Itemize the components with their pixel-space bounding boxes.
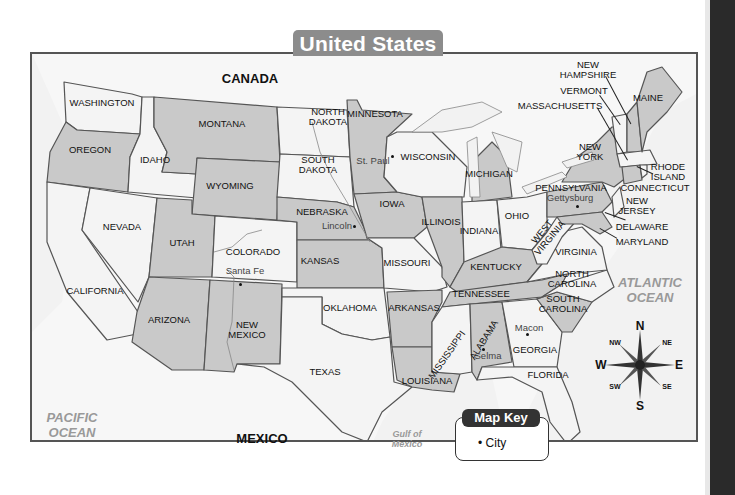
- ocean-label-atlantic: ATLANTICOCEAN: [618, 275, 682, 305]
- state-label-north-carolina: NORTHCAROLINA: [548, 269, 597, 289]
- state-label-kentucky: KENTUCKY: [470, 262, 522, 272]
- state-label-california: CALIFORNIA: [66, 286, 123, 296]
- state-label-utah: UTAH: [169, 238, 194, 248]
- city-label-santa-fe: Santa Fe: [226, 266, 265, 276]
- compass-se: SE: [662, 383, 671, 390]
- state-label-new-jersey: NEWJERSEY: [619, 196, 656, 216]
- page-title: United States: [293, 30, 443, 56]
- state-label-washington: WASHINGTON: [70, 98, 135, 108]
- state-label-delaware: DELAWARE: [616, 222, 669, 232]
- state-label-minnesota: MINNESOTA: [347, 109, 403, 119]
- state-label-iowa: IOWA: [380, 199, 405, 209]
- state-label-tennessee: TENNESSEE: [452, 289, 510, 299]
- state-label-florida: FLORIDA: [527, 370, 568, 380]
- city-label-macon: Macon: [515, 323, 544, 333]
- compass-s: S: [636, 399, 644, 413]
- state-label-montana: MONTANA: [199, 119, 246, 129]
- country-label-canada: CANADA: [222, 71, 278, 86]
- state-label-south-dakota: SOUTHDAKOTA: [299, 155, 337, 175]
- compass-rose: N S W E NW NE SW SE: [595, 320, 685, 410]
- state-label-missouri: MISSOURI: [384, 258, 431, 268]
- state-label-kansas: KANSAS: [301, 256, 340, 266]
- city-dot-icon: •: [478, 436, 482, 450]
- ocean-label-pacific: PACIFICOCEAN: [46, 410, 97, 440]
- state-label-georgia: GEORGIA: [513, 345, 557, 355]
- city-label-lincoln: Lincoln: [322, 221, 352, 231]
- compass-n: N: [636, 319, 645, 333]
- state-label-wyoming: WYOMING: [206, 181, 254, 191]
- compass-nw: NW: [609, 339, 621, 346]
- state-label-nebraska: NEBRASKA: [296, 207, 348, 217]
- state-label-louisiana: LOUISIANA: [402, 376, 453, 386]
- state-label-new-mexico: NEWMEXICO: [228, 320, 265, 340]
- state-label-indiana: INDIANA: [460, 226, 499, 236]
- state-label-vermont: VERMONT: [560, 86, 608, 96]
- state-label-north-dakota: NORTHDAKOTA: [309, 107, 347, 127]
- city-label-gettysburg: Gettysburg: [547, 193, 593, 203]
- state-label-idaho: IDAHO: [140, 155, 170, 165]
- state-label-arkansas: ARKANSAS: [388, 303, 440, 313]
- state-label-massachusetts: MASSACHUSETTS: [518, 101, 602, 111]
- compass-e: E: [675, 358, 683, 372]
- state-label-maryland: MARYLAND: [616, 237, 669, 247]
- compass-sw: SW: [609, 383, 620, 390]
- state-label-oregon: OREGON: [69, 145, 111, 155]
- dark-side-bar: [710, 0, 735, 495]
- state-label-nevada: NEVADA: [103, 222, 141, 232]
- state-label-connecticut: CONNECTICUT: [620, 183, 689, 193]
- city-dot-macon: [526, 333, 529, 336]
- compass-ne: NE: [662, 339, 672, 346]
- city-label-st-paul: St. Paul: [356, 156, 389, 166]
- state-label-colorado: COLORADO: [226, 247, 280, 257]
- state-label-illinois: ILLINOIS: [421, 217, 460, 227]
- gulf-label: Gulf ofMexico: [392, 429, 423, 449]
- map-key-item-label: City: [486, 436, 507, 450]
- map-key-item-city: • City: [478, 436, 506, 450]
- state-label-oklahoma: OKLAHOMA: [323, 303, 377, 313]
- compass-star-icon: [595, 320, 685, 410]
- compass-w: W: [595, 358, 606, 372]
- city-dot-lincoln: [353, 225, 356, 228]
- country-label-mexico: MEXICO: [236, 431, 287, 446]
- state-label-arizona: ARIZONA: [148, 315, 190, 325]
- state-label-new-hampshire: NEWHAMPSHIRE: [560, 60, 616, 80]
- state-label-maine: MAINE: [633, 93, 663, 103]
- state-label-south-carolina: SOUTHCAROLINA: [539, 294, 588, 314]
- state-label-new-york: NEWYORK: [577, 142, 604, 162]
- state-label-virginia: VIRGINIA: [555, 247, 597, 257]
- map-key-title: Map Key: [462, 409, 540, 427]
- state-label-michigan: MICHIGAN: [465, 169, 513, 179]
- state-label-wisconsin: WISCONSIN: [401, 152, 456, 162]
- state-label-texas: TEXAS: [309, 367, 340, 377]
- state-label-rhode-island: RHODEISLAND: [651, 162, 685, 182]
- city-dot-st-paul: [391, 155, 394, 158]
- state-label-ohio: OHIO: [505, 211, 529, 221]
- city-dot-santa-fe: [239, 283, 242, 286]
- city-label-selma: Selma: [475, 351, 502, 361]
- city-dot-gettysburg: [576, 205, 579, 208]
